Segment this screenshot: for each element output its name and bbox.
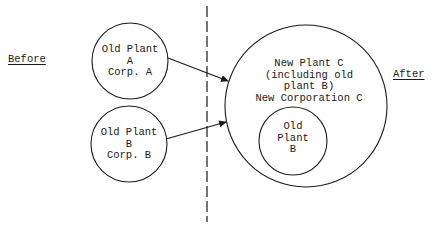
diagram-canvas: Before After Old Plant A Corp. A Old Pla… <box>0 0 436 241</box>
after-label: After <box>393 68 425 80</box>
arrow-b-to-c <box>166 122 226 139</box>
old-plant-b-line-3: Corp. B <box>91 150 167 162</box>
new-plant-c-line-1: New Plant C <box>246 58 372 70</box>
old-plant-a-line-1: Old Plant <box>92 44 168 56</box>
arrow-a-to-c <box>168 58 228 81</box>
old-plant-a-text: Old Plant A Corp. A <box>92 44 168 79</box>
old-plant-a-line-3: Corp. A <box>92 67 168 79</box>
new-plant-c-line-3: plant B) <box>246 81 372 93</box>
old-plant-b-text: Old Plant B Corp. B <box>91 127 167 162</box>
before-label: Before <box>8 53 46 65</box>
inner-old-plant-b-line-1: Old <box>263 121 323 133</box>
new-plant-c-circle <box>225 25 387 187</box>
inner-old-plant-b-text: Old Plant B <box>263 121 323 156</box>
new-plant-c-text: New Plant C (including old plant B) New … <box>246 58 372 104</box>
diagram-shapes <box>0 0 436 241</box>
new-plant-c-line-4: New Corporation C <box>246 93 372 105</box>
old-plant-b-line-1: Old Plant <box>91 127 167 139</box>
inner-old-plant-b-line-3: B <box>263 144 323 156</box>
